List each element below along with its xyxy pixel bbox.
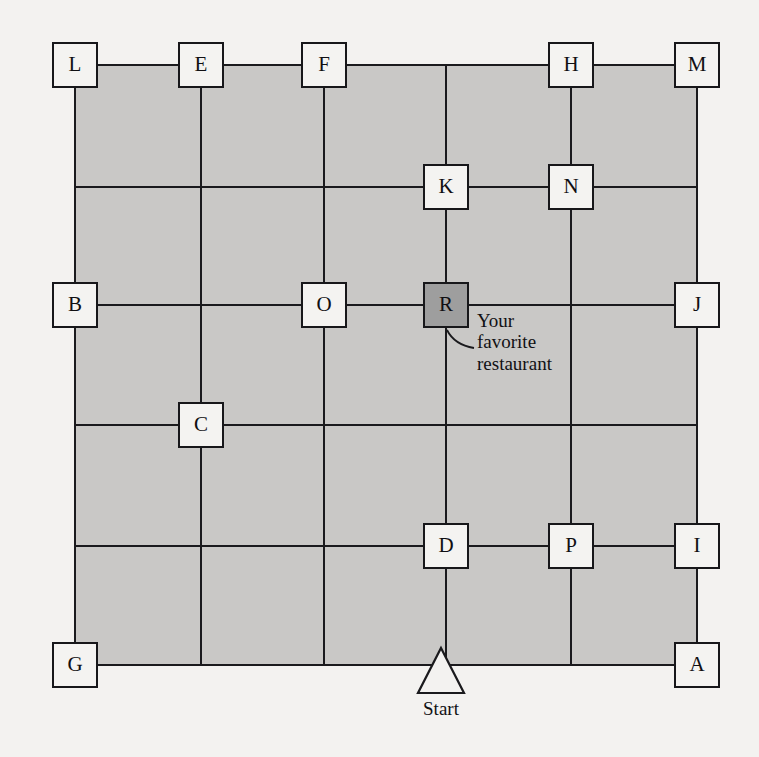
- node-label: N: [563, 176, 578, 197]
- node-label: F: [318, 54, 330, 75]
- node-G[interactable]: G: [52, 642, 98, 688]
- node-K[interactable]: K: [423, 164, 469, 210]
- node-L[interactable]: L: [52, 42, 98, 88]
- street-grid-svg: [0, 0, 759, 757]
- node-label: K: [438, 176, 453, 197]
- node-label: R: [439, 294, 453, 315]
- node-R[interactable]: R: [423, 282, 469, 328]
- node-label: C: [194, 414, 208, 435]
- city-blocks-shading: [75, 65, 697, 665]
- node-D[interactable]: D: [423, 523, 469, 569]
- node-M[interactable]: M: [674, 42, 720, 88]
- node-label: O: [316, 294, 331, 315]
- start-label: Start: [406, 698, 476, 720]
- node-label: G: [67, 654, 82, 675]
- node-A[interactable]: A: [674, 642, 720, 688]
- node-I[interactable]: I: [674, 523, 720, 569]
- node-label: I: [694, 535, 701, 556]
- node-E[interactable]: E: [178, 42, 224, 88]
- node-B[interactable]: B: [52, 282, 98, 328]
- node-label: A: [689, 654, 704, 675]
- node-label: H: [563, 54, 578, 75]
- node-P[interactable]: P: [548, 523, 594, 569]
- node-H[interactable]: H: [548, 42, 594, 88]
- node-J[interactable]: J: [674, 282, 720, 328]
- node-O[interactable]: O: [301, 282, 347, 328]
- diagram-page: L E F H M K N B O R J C D P I G A Your f…: [0, 0, 759, 757]
- node-C[interactable]: C: [178, 402, 224, 448]
- node-label: B: [68, 294, 82, 315]
- node-F[interactable]: F: [301, 42, 347, 88]
- restaurant-annotation: Your favorite restaurant: [477, 310, 552, 374]
- node-label: P: [565, 535, 577, 556]
- node-N[interactable]: N: [548, 164, 594, 210]
- node-label: D: [438, 535, 453, 556]
- node-label: E: [195, 54, 208, 75]
- node-label: J: [693, 294, 701, 315]
- node-label: M: [688, 54, 707, 75]
- node-label: L: [69, 54, 82, 75]
